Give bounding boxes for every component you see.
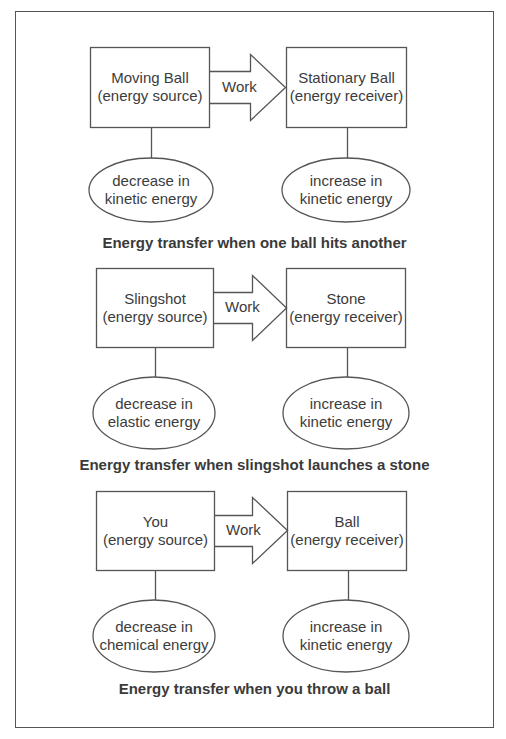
receiver-name: Stationary Ball <box>298 69 395 87</box>
source-name: Moving Ball <box>111 69 189 87</box>
receiver-label-3: Ball (energy receiver) <box>287 491 407 571</box>
receiver-effect-label-1: increase in kinetic energy <box>282 158 410 222</box>
effect-line: increase in <box>310 172 383 190</box>
receiver-name: Stone <box>326 290 365 308</box>
source-label-1: Moving Ball (energy source) <box>90 47 210 127</box>
receiver-effect-label-3: increase in kinetic energy <box>283 600 409 672</box>
receiver-label-2: Stone (energy receiver) <box>286 268 406 348</box>
receiver-role: (energy receiver) <box>289 308 402 326</box>
receiver-role: (energy receiver) <box>290 531 403 549</box>
source-effect-label-2: decrease in elastic energy <box>93 377 215 449</box>
effect-line: elastic energy <box>108 413 201 431</box>
caption-1: Energy transfer when one ball hits anoth… <box>15 234 494 251</box>
work-label-3: Work <box>226 521 261 538</box>
receiver-label-1: Stationary Ball (energy receiver) <box>286 47 407 127</box>
source-name: Slingshot <box>124 290 186 308</box>
effect-line: kinetic energy <box>105 190 198 208</box>
effect-line: kinetic energy <box>300 413 393 431</box>
receiver-effect-label-2: increase in kinetic energy <box>283 377 409 449</box>
caption-2: Energy transfer when slingshot launches … <box>15 456 494 473</box>
effect-line: increase in <box>310 618 383 636</box>
effect-line: increase in <box>310 395 383 413</box>
caption-3: Energy transfer when you throw a ball <box>15 680 494 697</box>
effect-line: kinetic energy <box>300 190 393 208</box>
source-effect-label-3: decrease in chemical energy <box>93 600 215 672</box>
source-role: (energy source) <box>102 308 207 326</box>
source-label-3: You (energy source) <box>96 491 215 571</box>
work-label-1: Work <box>222 78 257 95</box>
receiver-role: (energy receiver) <box>290 87 403 105</box>
source-role: (energy source) <box>103 531 208 549</box>
source-role: (energy source) <box>97 87 202 105</box>
effect-line: kinetic energy <box>300 636 393 654</box>
effect-line: decrease in <box>115 618 193 636</box>
diagram-shapes <box>0 0 506 739</box>
source-name: You <box>143 513 168 531</box>
effect-line: decrease in <box>112 172 190 190</box>
source-effect-label-1: decrease in kinetic energy <box>89 158 213 222</box>
effect-line: decrease in <box>115 395 193 413</box>
source-label-2: Slingshot (energy source) <box>96 268 214 348</box>
work-label-2: Work <box>225 298 260 315</box>
effect-line: chemical energy <box>99 636 208 654</box>
receiver-name: Ball <box>334 513 359 531</box>
